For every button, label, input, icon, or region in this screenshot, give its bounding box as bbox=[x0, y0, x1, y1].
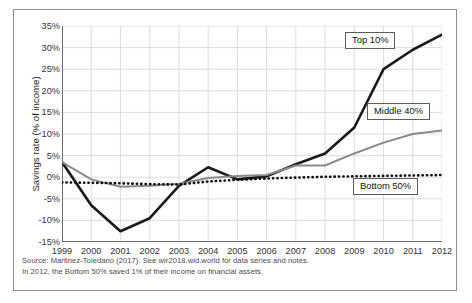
plot-area bbox=[62, 26, 442, 242]
x-axis-tick-label: 2003 bbox=[169, 246, 189, 256]
x-axis-tick-label: 2010 bbox=[373, 246, 393, 256]
series-line-top-10 bbox=[62, 35, 442, 232]
horizontal-gridlines bbox=[62, 26, 442, 242]
y-axis-tick-label: 0% bbox=[38, 172, 60, 182]
series-label-bottom-50: Bottom 50% bbox=[353, 178, 418, 195]
x-axis-tick-label: 2009 bbox=[344, 246, 364, 256]
y-axis-tick-label: 5% bbox=[38, 151, 60, 161]
footnote-block: Source: Martinez-Toledano (2017). See wi… bbox=[22, 256, 442, 277]
x-axis-tick-label: 2008 bbox=[315, 246, 335, 256]
y-axis-tick-label: -10% bbox=[38, 215, 60, 225]
y-axis-tick-label: 25% bbox=[38, 64, 60, 74]
x-axis-tick-label: 2001 bbox=[110, 246, 130, 256]
x-axis-tick-label: 2007 bbox=[286, 246, 306, 256]
x-axis-tick-label: 2004 bbox=[198, 246, 218, 256]
y-axis-tick-labels: 35%30%25%20%15%10%5%0%-5%-10%-15% bbox=[38, 26, 60, 242]
footnote-source: Source: Martinez-Toledano (2017). See wi… bbox=[22, 256, 442, 267]
series-label-middle-40: Middle 40% bbox=[367, 103, 430, 120]
x-axis-tick-label: 2000 bbox=[81, 246, 101, 256]
chart-figure: Savings rate (% of income) 35%30%25%20%1… bbox=[0, 0, 472, 303]
x-axis-tick-label: 1999 bbox=[52, 246, 72, 256]
y-axis-tick-label: 15% bbox=[38, 107, 60, 117]
y-axis-tick-label: -5% bbox=[38, 194, 60, 204]
x-axis-tick-label: 2006 bbox=[256, 246, 276, 256]
plot-svg bbox=[62, 26, 442, 242]
y-axis-tick-label: 10% bbox=[38, 129, 60, 139]
y-axis-tick-label: 35% bbox=[38, 21, 60, 31]
x-axis-tick-label: 2002 bbox=[139, 246, 159, 256]
x-axis-tick-label: 2011 bbox=[403, 246, 423, 256]
x-axis-tick-label: 2012 bbox=[432, 246, 452, 256]
y-axis-tick-label: 30% bbox=[38, 43, 60, 53]
x-axis-tick-label: 2005 bbox=[227, 246, 247, 256]
y-axis-tick-label: 20% bbox=[38, 86, 60, 96]
footnote-detail: In 2012, the Bottom 50% saved 1% of thei… bbox=[22, 267, 442, 278]
series-label-top-10: Top 10% bbox=[345, 32, 395, 49]
